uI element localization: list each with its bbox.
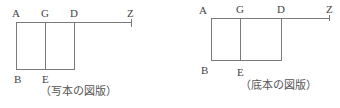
left-label-g: G bbox=[41, 8, 49, 19]
left-label-a: A bbox=[12, 8, 20, 19]
left-label-e: E bbox=[42, 74, 49, 85]
right-caption: （底本の図版） bbox=[240, 80, 317, 92]
left-figure-lines bbox=[17, 19, 132, 70]
right-label-e: E bbox=[237, 67, 244, 78]
left-label-d: D bbox=[70, 8, 78, 19]
right-label-z: Z bbox=[326, 4, 333, 15]
left-label-z: Z bbox=[127, 8, 134, 19]
right-figure-lines bbox=[212, 15, 331, 61]
right-label-b: B bbox=[201, 65, 208, 76]
right-label-g: G bbox=[236, 4, 244, 15]
left-label-b: B bbox=[14, 74, 21, 85]
right-label-d: D bbox=[277, 4, 285, 15]
right-label-a: A bbox=[199, 5, 207, 16]
left-caption: （写本の図版） bbox=[40, 86, 117, 98]
